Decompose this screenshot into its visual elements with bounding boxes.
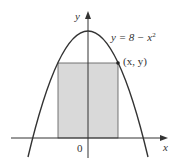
x-axis-label: x [162, 141, 168, 153]
origin-label: 0 [77, 142, 83, 154]
point-label: (x, y) [123, 55, 147, 68]
y-axis-label: y [74, 10, 80, 22]
parabola-rectangle-diagram: y x 0 y = 8 − x2 (x, y) [0, 0, 177, 167]
point-marker [116, 61, 120, 65]
curve-equation-text: y = 8 − x [110, 31, 152, 43]
curve-equation-label: y = 8 − x2 [110, 31, 156, 43]
y-axis-arrow-icon [85, 11, 91, 19]
curve-equation-exponent: 2 [152, 31, 156, 39]
